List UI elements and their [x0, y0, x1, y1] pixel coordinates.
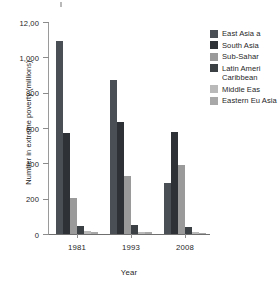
y-axis-tick-label: 1,000 — [19, 53, 39, 62]
y-axis-tick: 800 — [43, 93, 49, 94]
legend-item-label: South Asia — [222, 41, 259, 50]
legend-item[interactable]: Latin Ameri Caribbean — [210, 64, 279, 83]
bar-group: 1981 — [56, 22, 98, 234]
bar — [124, 176, 131, 234]
y-axis-tick-label: 800 — [26, 89, 39, 98]
legend-item-label: Sub-Sahar — [222, 52, 259, 61]
legend-swatch-icon — [210, 41, 218, 49]
bar — [117, 122, 124, 234]
bar — [192, 232, 199, 234]
x-axis-tick — [77, 234, 78, 238]
y-axis-tick: 600 — [43, 128, 49, 129]
bar-group: 2008 — [164, 22, 206, 234]
bar-group: 1993 — [110, 22, 152, 234]
bar-group-bars — [164, 22, 206, 234]
x-axis-title: Year — [48, 268, 210, 277]
x-axis-tick — [185, 234, 186, 238]
bar — [77, 226, 84, 234]
x-axis-tick-label: 1993 — [111, 243, 151, 252]
legend-swatch-icon — [210, 97, 218, 105]
legend-item[interactable]: Middle Eas — [210, 85, 279, 94]
bar — [178, 165, 185, 234]
legend-item-label: Latin Ameri Caribbean — [222, 64, 279, 83]
bar — [110, 80, 117, 234]
legend-item[interactable]: South Asia — [210, 41, 279, 50]
bar — [131, 225, 138, 234]
y-axis-tick-label: 600 — [26, 124, 39, 133]
bar — [185, 227, 192, 234]
legend-item-label: Eastern Eu Asia — [222, 96, 279, 105]
bar — [145, 232, 152, 234]
legend-swatch-icon — [210, 85, 218, 93]
legend-swatch-icon — [210, 30, 218, 38]
x-axis-tick-label: 1981 — [57, 243, 97, 252]
chart-legend: East Asia aSouth AsiaSub-SaharLatin Amer… — [210, 29, 279, 108]
legend-swatch-icon — [210, 64, 218, 72]
legend-item-label: Middle Eas — [222, 85, 260, 94]
y-axis-tick-label: 12,00 — [19, 18, 39, 27]
x-axis-tick-label: 2008 — [165, 243, 205, 252]
bar-group-bars — [110, 22, 152, 234]
y-axis-tick-label: 200 — [26, 195, 39, 204]
legend-item[interactable]: East Asia a — [210, 29, 279, 38]
legend-item[interactable]: Eastern Eu Asia — [210, 96, 279, 105]
bar — [70, 198, 77, 234]
y-axis-tick: 12,00 — [43, 22, 49, 23]
legend-item-label: East Asia a — [222, 29, 261, 38]
bar — [199, 233, 206, 234]
chart-figure: Number in extreme poverty (millions) 020… — [0, 0, 279, 286]
y-axis-tick: 200 — [43, 199, 49, 200]
legend-item[interactable]: Sub-Sahar — [210, 52, 279, 61]
legend-swatch-icon — [210, 53, 218, 61]
y-axis-tick: 1,000 — [43, 57, 49, 58]
bar — [84, 231, 91, 234]
y-axis-tick-label: 400 — [26, 159, 39, 168]
bar — [138, 232, 145, 234]
bar-group-bars — [56, 22, 98, 234]
bar — [91, 232, 98, 234]
bar — [164, 183, 171, 234]
y-axis-tick: 0 — [43, 234, 49, 235]
bar — [56, 41, 63, 234]
y-axis-tick-label: 0 — [35, 230, 39, 239]
bar — [63, 133, 70, 234]
bar — [171, 132, 178, 234]
scan-artifact — [60, 2, 62, 7]
plot-area: 02004006008001,00012,00 198119932008 — [48, 22, 210, 235]
x-axis-tick — [131, 234, 132, 238]
y-axis-tick: 400 — [43, 163, 49, 164]
